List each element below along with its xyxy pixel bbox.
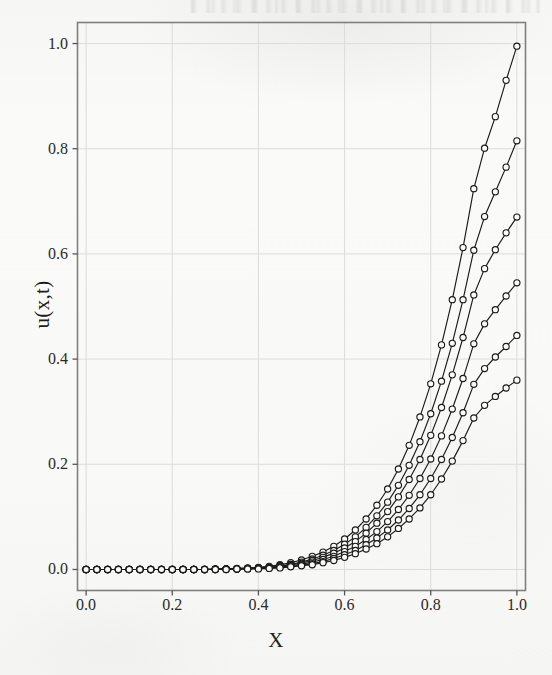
series-marker: [352, 551, 358, 557]
series-marker: [201, 566, 207, 572]
series-marker: [471, 415, 477, 421]
series-marker: [255, 566, 261, 572]
series-marker: [471, 292, 477, 298]
series-marker: [363, 516, 369, 522]
series-marker: [115, 566, 121, 572]
series-marker: [449, 434, 455, 440]
series-marker: [514, 332, 520, 338]
data-series: [83, 214, 520, 573]
series-marker: [105, 566, 111, 572]
series-marker: [438, 476, 444, 482]
series-marker: [395, 506, 401, 512]
series-marker: [137, 566, 143, 572]
series-marker: [245, 566, 251, 572]
series-marker: [449, 372, 455, 378]
series-marker: [83, 566, 89, 572]
data-series: [83, 43, 520, 572]
series-marker: [148, 566, 154, 572]
y-axis-label: u(x,t): [30, 245, 55, 365]
series-marker: [492, 354, 498, 360]
series-marker: [438, 342, 444, 348]
series-marker: [481, 266, 487, 272]
series-marker: [471, 381, 477, 387]
x-tick-label: 0.4: [248, 596, 268, 614]
series-marker: [460, 438, 466, 444]
series-marker: [438, 404, 444, 410]
x-tick-label: 1.0: [507, 596, 527, 614]
line-chart-plot: [0, 0, 552, 675]
series-marker: [406, 492, 412, 498]
series-marker: [374, 529, 380, 535]
series-marker: [266, 565, 272, 571]
series-marker: [514, 43, 520, 49]
series-marker: [471, 186, 477, 192]
data-series: [83, 280, 520, 573]
series-marker: [503, 385, 509, 391]
series-line: [86, 217, 517, 569]
series-marker: [449, 458, 455, 464]
series-marker: [223, 566, 229, 572]
series-marker: [481, 321, 487, 327]
axes-frame: [78, 23, 526, 591]
series-marker: [481, 145, 487, 151]
series-marker: [449, 340, 455, 346]
series-marker: [191, 566, 197, 572]
series-marker: [438, 378, 444, 384]
series-marker: [395, 494, 401, 500]
series-marker: [385, 527, 391, 533]
series-marker: [428, 456, 434, 462]
series-marker: [417, 492, 423, 498]
series-line: [86, 335, 517, 569]
series-marker: [514, 377, 520, 383]
series-line: [86, 283, 517, 570]
series-marker: [492, 307, 498, 313]
series-marker: [406, 442, 412, 448]
series-marker: [180, 566, 186, 572]
series-marker: [374, 541, 380, 547]
series-marker: [514, 214, 520, 220]
series-marker: [406, 505, 412, 511]
series-marker: [363, 530, 369, 536]
plot-frame: [78, 23, 526, 591]
series-marker: [449, 406, 455, 412]
series-marker: [417, 439, 423, 445]
series-marker: [503, 164, 509, 170]
series-marker: [471, 247, 477, 253]
series-marker: [481, 402, 487, 408]
series-marker: [385, 509, 391, 515]
x-tick-label: 0.8: [421, 596, 441, 614]
series-marker: [406, 462, 412, 468]
series-marker: [417, 456, 423, 462]
series-marker: [298, 563, 304, 569]
series-marker: [460, 245, 466, 251]
series-line: [86, 141, 517, 570]
series-marker: [428, 432, 434, 438]
series-marker: [212, 566, 218, 572]
y-tick-label: 0.0: [28, 560, 68, 578]
series-marker: [503, 343, 509, 349]
series-marker: [309, 562, 315, 568]
x-tick-label: 0.2: [162, 596, 182, 614]
series-marker: [94, 566, 100, 572]
series-marker: [492, 247, 498, 253]
series-marker: [503, 77, 509, 83]
series-marker: [234, 566, 240, 572]
series-marker: [395, 482, 401, 488]
series-marker: [352, 527, 358, 533]
series-marker: [406, 476, 412, 482]
series-marker: [395, 466, 401, 472]
series-marker: [331, 557, 337, 563]
series-marker: [492, 114, 498, 120]
y-tick-label: 1.0: [28, 35, 68, 53]
series-marker: [428, 475, 434, 481]
series-marker: [385, 486, 391, 492]
series-marker: [374, 520, 380, 526]
series-marker: [449, 297, 455, 303]
series-marker: [385, 519, 391, 525]
series-marker: [385, 534, 391, 540]
series-marker: [374, 502, 380, 508]
series-marker: [481, 213, 487, 219]
series-marker: [460, 375, 466, 381]
series-marker: [385, 499, 391, 505]
series-marker: [417, 505, 423, 511]
